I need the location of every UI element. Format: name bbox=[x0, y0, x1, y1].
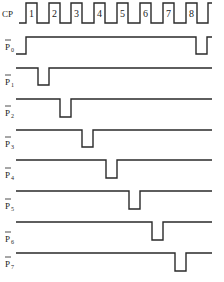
svg-text:6: 6 bbox=[11, 239, 14, 245]
clock-signal: CP 1 2 3 4 5 6 7 8 bbox=[2, 3, 212, 23]
svg-text:0: 0 bbox=[11, 47, 14, 53]
output-label-p1: P bbox=[5, 77, 10, 87]
output-label-p0: P bbox=[5, 42, 10, 52]
clock-waveform bbox=[19, 3, 212, 23]
output-label-p2: P bbox=[5, 108, 10, 118]
output-label-p4: P bbox=[5, 170, 10, 180]
p4-waveform bbox=[16, 160, 212, 178]
output-p4: P 4 bbox=[5, 160, 212, 181]
output-p5: P 5 bbox=[5, 191, 212, 212]
output-p7: P 7 bbox=[5, 253, 212, 271]
svg-text:5: 5 bbox=[11, 206, 14, 212]
output-label-p6: P bbox=[5, 234, 10, 244]
svg-text:2: 2 bbox=[11, 113, 14, 119]
clock-label: CP bbox=[2, 9, 13, 19]
p1-waveform bbox=[16, 68, 212, 85]
output-p2: P 2 bbox=[5, 99, 212, 119]
pulse-label-7: 7 bbox=[166, 8, 171, 19]
output-label-p5: P bbox=[5, 201, 10, 211]
pulse-label-5: 5 bbox=[120, 8, 125, 19]
p3-waveform bbox=[16, 130, 212, 147]
output-p0: P 0 bbox=[5, 37, 212, 54]
output-label-p7: P bbox=[5, 259, 10, 269]
svg-text:1: 1 bbox=[11, 82, 14, 88]
output-p6: P 6 bbox=[5, 222, 212, 245]
output-p3: P 3 bbox=[5, 130, 212, 150]
output-label-p3: P bbox=[5, 139, 10, 149]
pulse-label-6: 6 bbox=[143, 8, 148, 19]
pulse-label-3: 3 bbox=[74, 8, 79, 19]
svg-text:3: 3 bbox=[11, 144, 14, 150]
svg-text:7: 7 bbox=[11, 264, 14, 270]
pulse-label-4: 4 bbox=[97, 8, 102, 19]
svg-text:4: 4 bbox=[11, 175, 14, 181]
p5-waveform bbox=[16, 191, 212, 209]
p0-waveform bbox=[16, 37, 212, 54]
pulse-label-8: 8 bbox=[189, 8, 194, 19]
pulse-label-1: 1 bbox=[29, 8, 34, 19]
timing-diagram: CP 1 2 3 4 5 6 7 8 P 0 P 1 P 2 P 3 bbox=[0, 0, 224, 282]
pulse-label-2: 2 bbox=[52, 8, 57, 19]
p7-waveform bbox=[16, 253, 212, 271]
output-p1: P 1 bbox=[5, 68, 212, 88]
p6-waveform bbox=[16, 222, 212, 240]
p2-waveform bbox=[16, 99, 212, 117]
